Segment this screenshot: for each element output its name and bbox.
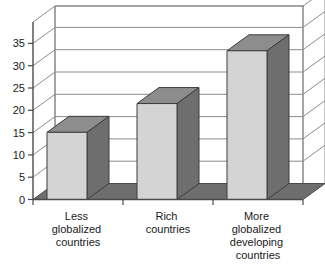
- right-grid-10: [303, 123, 325, 139]
- category-label-more-globalized-developing-countries: More globalized developing countries: [230, 210, 286, 261]
- ytick-label-30: 30: [13, 60, 25, 72]
- bar-front-face: [137, 104, 177, 200]
- right-grid-20: [303, 78, 325, 94]
- ytick-label-25: 25: [13, 82, 25, 94]
- category-label-rich-countries: Rich countries: [146, 210, 191, 235]
- bar-side-face: [177, 88, 199, 200]
- bar-side-face: [267, 35, 289, 200]
- category-label-line: globalized: [232, 223, 282, 235]
- right-grid-25: [303, 56, 325, 72]
- ytick-label-10: 10: [13, 149, 25, 161]
- bar-group-rich-countries[interactable]: [137, 88, 199, 200]
- y-axis-tick-labels: 0 5 10 15 20 25 30 35: [13, 37, 25, 205]
- chart-canvas: 0 5 10 15 20 25 30 35 Less globalized co…: [0, 0, 325, 268]
- bar-group-less-globalized-countries[interactable]: [47, 116, 109, 199]
- category-label-line: globalized: [52, 223, 102, 235]
- category-label-line: Less: [65, 210, 89, 222]
- category-label-line: countries: [56, 236, 101, 248]
- ytick-label-35: 35: [13, 37, 25, 49]
- bar-chart-figure: 0 5 10 15 20 25 30 35 Less globalized co…: [0, 0, 325, 268]
- bar-front-face: [47, 132, 87, 199]
- ytick-label-5: 5: [19, 171, 25, 183]
- category-label-line: More: [244, 210, 269, 222]
- category-label-line: countries: [146, 223, 191, 235]
- right-grid-30: [303, 34, 325, 50]
- ytick-label-15: 15: [13, 127, 25, 139]
- ytick-label-0: 0: [19, 194, 25, 206]
- right-grid-35: [303, 11, 325, 27]
- x-axis-category-labels: Less globalized countries Rich countries…: [52, 210, 286, 261]
- depth-line-top: [33, 6, 55, 22]
- bar-front-face: [227, 51, 267, 200]
- ytick-label-20: 20: [13, 104, 25, 116]
- depth-line-20: [33, 94, 55, 110]
- category-label-line: countries: [236, 249, 281, 261]
- right-grid-15: [303, 101, 325, 117]
- depth-line-30: [33, 50, 55, 66]
- right-grid-top: [303, 0, 325, 6]
- y-axis-ticks: [28, 43, 33, 199]
- category-label-line: developing: [230, 236, 283, 248]
- depth-line-25: [33, 72, 55, 88]
- depth-line-35: [33, 27, 55, 43]
- x-axis-ticks: [33, 200, 303, 206]
- category-label-line: Rich: [155, 210, 177, 222]
- bar-group-more-globalized-developing-countries[interactable]: [227, 35, 289, 200]
- right-wall-gridlines: [303, 0, 325, 184]
- right-grid-5: [303, 145, 325, 161]
- category-label-less-globalized-countries: Less globalized countries: [52, 210, 105, 248]
